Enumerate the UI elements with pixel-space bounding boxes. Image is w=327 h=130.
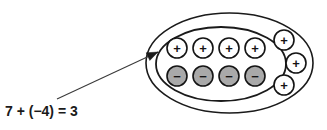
chip-positive-5-sign: + <box>280 33 288 48</box>
chip-positive-4-sign: + <box>251 41 259 56</box>
chip-positive-3-sign: + <box>225 41 233 56</box>
chip-negative-2-sign: − <box>199 69 207 84</box>
equation-label: 7 + (−4) = 3 <box>5 103 78 119</box>
chip-positive-1-sign: + <box>173 41 181 56</box>
chip-negative-4-sign: − <box>251 69 259 84</box>
top-row-positive-chips: ++++ <box>167 38 265 58</box>
chip-positive-6-sign: + <box>292 56 300 71</box>
chip-negative-1-sign: − <box>173 69 181 84</box>
chip-negative-3-sign: − <box>225 69 233 84</box>
arrow-shaft <box>57 52 158 99</box>
chip-positive-2-sign: + <box>199 41 207 56</box>
figure-canvas: ++++ −−−− +++ 7 + (−4) = 3 <box>0 0 327 130</box>
outside-positive-chips: +++ <box>274 30 306 95</box>
integer-chip-diagram: ++++ −−−− +++ 7 + (−4) = 3 <box>0 0 327 130</box>
bottom-row-negative-chips: −−−− <box>167 66 265 86</box>
zero-pair-pointer-arrow <box>57 52 158 99</box>
chip-positive-7-sign: + <box>280 78 288 93</box>
